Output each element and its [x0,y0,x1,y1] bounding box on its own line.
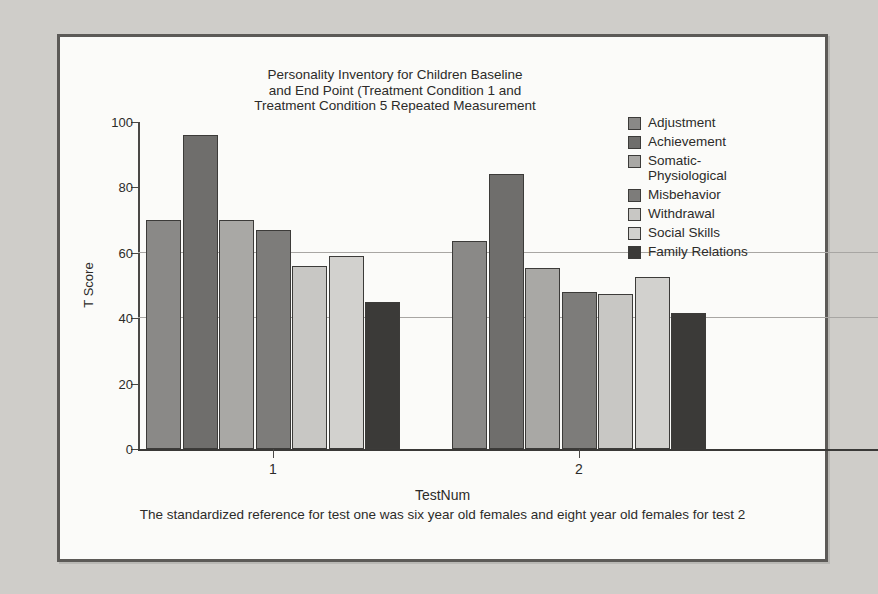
legend-label: Social Skills [648,225,720,240]
bar [452,241,487,449]
legend-label: Misbehavior [648,187,721,202]
legend-item[interactable]: Social Skills [628,225,823,240]
bar [256,230,291,449]
legend-label: Somatic- Physiological [648,153,727,183]
chart-footnote: The standardized reference for test one … [78,507,807,523]
legend: AdjustmentAchievementSomatic- Physiologi… [628,115,823,263]
y-tick-label: 20 [119,376,133,391]
bar [525,268,560,449]
bar [562,292,597,449]
x-axis-label: TestNum [60,487,825,503]
x-axis-line [138,449,878,451]
legend-label: Achievement [648,134,726,149]
y-tick-label: 80 [119,180,133,195]
y-tick-label: 60 [119,245,133,260]
bar [183,135,218,449]
legend-swatch-icon [628,227,641,240]
legend-item[interactable]: Misbehavior [628,187,823,202]
bar [146,220,181,449]
bar [219,220,254,449]
y-tick-label: 100 [111,115,133,130]
y-axis-label: T Score [81,262,96,307]
legend-swatch-icon [628,208,641,221]
x-tick-mark [273,449,274,458]
legend-item[interactable]: Withdrawal [628,206,823,221]
legend-item[interactable]: Family Relations [628,244,823,259]
x-tick-label: 2 [575,461,583,477]
bar [489,174,524,449]
y-tick-label: 0 [126,442,133,457]
legend-label: Adjustment [648,115,716,130]
legend-label: Family Relations [648,244,748,259]
legend-item[interactable]: Achievement [628,134,823,149]
bar [329,256,364,449]
legend-item[interactable]: Adjustment [628,115,823,130]
bar [635,277,670,449]
bar [598,294,633,449]
x-tick-mark [579,449,580,458]
x-tick-label: 1 [269,461,277,477]
legend-swatch-icon [628,136,641,149]
legend-item[interactable]: Somatic- Physiological [628,153,823,183]
y-tick-label: 40 [119,311,133,326]
plot-area: 020406080100 [138,122,653,449]
legend-swatch-icon [628,155,641,168]
bar [671,313,706,449]
chart-title: Personality Inventory for Children Basel… [180,67,610,114]
chart-frame: Personality Inventory for Children Basel… [57,34,828,562]
legend-swatch-icon [628,246,641,259]
legend-label: Withdrawal [648,206,715,221]
bar [292,266,327,449]
legend-swatch-icon [628,189,641,202]
legend-swatch-icon [628,117,641,130]
bar [365,302,400,449]
